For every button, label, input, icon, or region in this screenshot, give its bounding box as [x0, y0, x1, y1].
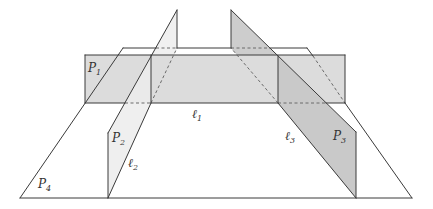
planes-diagram: P1 P2 P3 P4 ℓ1 ℓ2 ℓ3 — [0, 0, 433, 209]
